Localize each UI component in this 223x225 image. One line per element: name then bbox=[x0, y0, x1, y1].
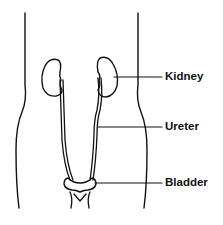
body-outline-right bbox=[137, 13, 147, 208]
urethra-center bbox=[74, 194, 86, 201]
body-outline-left bbox=[16, 13, 26, 208]
urethra-left bbox=[70, 192, 72, 208]
urethra-right bbox=[88, 192, 90, 208]
label-kidney: Kidney bbox=[165, 71, 203, 83]
urinary-system-diagram bbox=[0, 0, 223, 225]
label-bladder: Bladder bbox=[165, 177, 208, 189]
bladder bbox=[64, 178, 96, 192]
label-ureter: Ureter bbox=[165, 121, 199, 133]
ureter-left-inner bbox=[63, 80, 73, 180]
kidney-left bbox=[42, 59, 62, 96]
